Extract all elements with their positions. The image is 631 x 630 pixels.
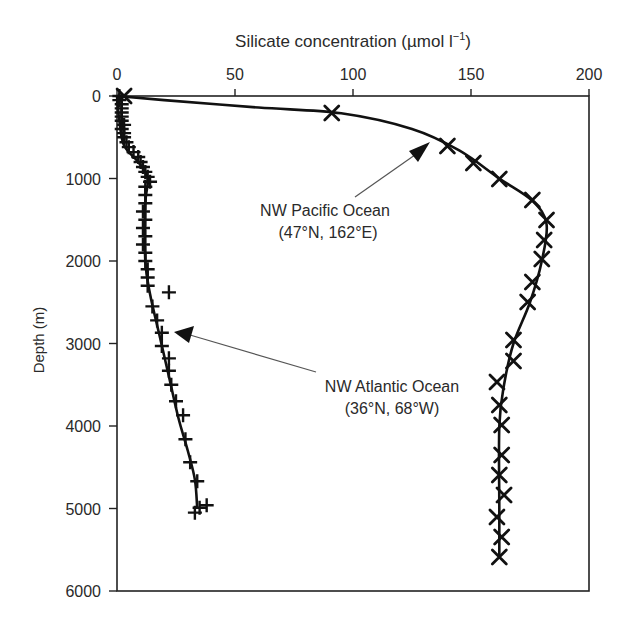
x-tick-label: 0 xyxy=(113,66,122,83)
plus-marker-icon xyxy=(136,205,150,219)
plus-marker-icon xyxy=(178,432,192,446)
y-tick-label: 1000 xyxy=(65,171,101,188)
plus-marker-icon xyxy=(145,299,159,313)
x-axis-title: Silicate concentration (µmol l−1) xyxy=(235,30,471,51)
plus-marker-icon xyxy=(190,474,204,488)
pacific-arrowhead-icon xyxy=(409,142,430,162)
plus-marker-icon xyxy=(183,455,197,469)
x-marker-icon xyxy=(495,448,509,462)
x-tick-label: 150 xyxy=(458,66,485,83)
y-tick-label: 2000 xyxy=(65,253,101,270)
plus-marker-icon xyxy=(155,339,169,353)
plus-marker-icon xyxy=(150,313,164,327)
plus-marker-icon xyxy=(164,378,178,392)
y-tick-label: 5000 xyxy=(65,501,101,518)
x-marker-icon xyxy=(490,375,504,389)
plus-marker-icon xyxy=(138,229,152,243)
x-marker-icon xyxy=(492,172,506,186)
x-tick-label: 100 xyxy=(340,66,367,83)
y-axis-title: Depth (m) xyxy=(30,307,47,374)
x-tick-labels: 050100150200 xyxy=(113,66,603,96)
x-marker-icon xyxy=(495,418,509,432)
pacific-series xyxy=(117,89,554,564)
plus-marker-icon xyxy=(138,213,152,227)
pacific-label: NW Pacific Ocean xyxy=(260,202,390,219)
atlantic-arrowhead-icon xyxy=(174,326,194,343)
fit-curve xyxy=(117,96,547,558)
fit-curve xyxy=(117,96,197,509)
atlantic-series xyxy=(112,89,213,520)
y-tick-label: 4000 xyxy=(65,418,101,435)
plus-marker-icon xyxy=(136,238,150,252)
plus-marker-icon xyxy=(162,364,176,378)
data-series xyxy=(112,89,553,564)
pacific-coords: (47°N, 162°E) xyxy=(278,224,377,241)
y-tick-labels: 0100020003000400050006000 xyxy=(65,88,117,600)
pacific-annotation: NW Pacific Ocean (47°N, 162°E) xyxy=(260,142,430,241)
pacific-arrow xyxy=(355,150,422,197)
plus-marker-icon xyxy=(169,394,183,408)
x-marker-icon xyxy=(495,530,509,544)
x-marker-icon xyxy=(525,193,539,207)
plus-marker-icon xyxy=(138,196,152,210)
plus-marker-icon xyxy=(138,254,152,268)
atlantic-label: NW Atlantic Ocean xyxy=(325,378,459,395)
y-tick-label: 0 xyxy=(92,88,101,105)
silicate-depth-chart: Silicate concentration (µmol l−1) Depth … xyxy=(0,0,631,630)
atlantic-annotation: NW Atlantic Ocean (36°N, 68°W) xyxy=(174,326,459,417)
plus-marker-icon xyxy=(162,285,176,299)
y-tick-label: 3000 xyxy=(65,336,101,353)
x-marker-icon xyxy=(490,510,504,524)
plus-marker-icon xyxy=(141,279,155,293)
x-tick-label: 50 xyxy=(226,66,244,83)
y-tick-label: 6000 xyxy=(65,583,101,600)
plus-marker-icon xyxy=(200,498,214,512)
plus-marker-icon xyxy=(136,221,150,235)
x-tick-label: 200 xyxy=(576,66,603,83)
atlantic-coords: (36°N, 68°W) xyxy=(345,400,440,417)
atlantic-arrow xyxy=(190,335,316,372)
